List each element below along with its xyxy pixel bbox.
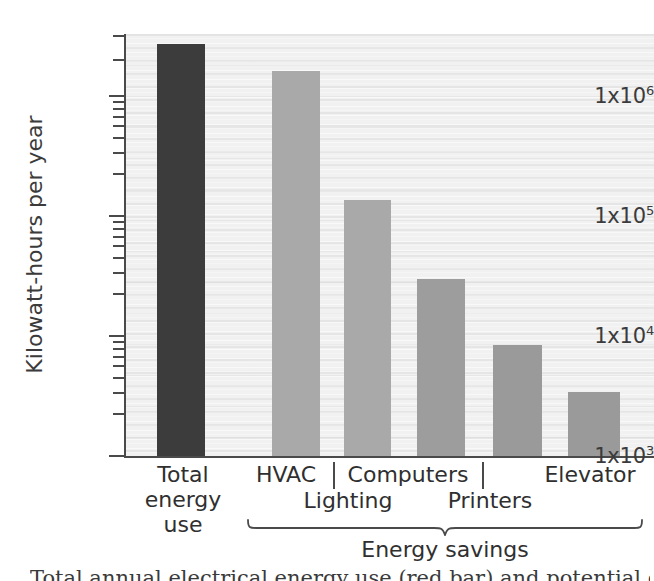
category-label-line1: Elevator: [530, 462, 650, 487]
bar-lighting[interactable]: [344, 200, 391, 456]
category-label-line3: use: [128, 512, 238, 537]
energy-savings-brace-icon: [246, 519, 644, 536]
bar-printers[interactable]: [493, 345, 542, 456]
bar-total-energy-use[interactable]: [157, 44, 205, 456]
y-tick-mantissa: 1x10: [594, 324, 646, 348]
y-tick-major-1e6: [109, 95, 125, 97]
category-label-hvac: HVAC: [241, 462, 331, 487]
y-tick-exponent: 6: [646, 83, 654, 98]
category-label-printers: Printers: [430, 488, 550, 513]
y-tick-exponent: 3: [646, 443, 654, 458]
y-tick-minor: [113, 173, 125, 175]
category-separator: [333, 462, 335, 489]
y-tick-minor: [113, 272, 125, 274]
y-tick-minor: [113, 413, 125, 415]
y-tick-minor: [113, 236, 125, 238]
y-tick-major-1e3: [109, 455, 125, 457]
figure-caption: Total annual electrical energy use (red …: [30, 566, 650, 581]
y-tick-minor: [113, 108, 125, 110]
y-tick-minor: [113, 137, 125, 139]
bar-hvac[interactable]: [272, 71, 320, 456]
y-tick-minor: [113, 341, 125, 343]
y-tick-minor: [113, 377, 125, 379]
category-label-total-energy-use: Total energy use: [128, 462, 238, 537]
y-tick-minor: [113, 228, 125, 230]
y-tick-exponent: 4: [646, 323, 654, 338]
y-tick-minor: [113, 35, 125, 37]
category-label-line2: energy: [128, 487, 238, 512]
energy-bar-chart-figure: 1x106 1x105 1x104 1x103 Kilowatt-hours p…: [0, 0, 654, 581]
y-tick-minor: [113, 221, 125, 223]
y-tick-minor: [113, 293, 125, 295]
y-tick-major-1e5: [109, 215, 125, 217]
y-tick-label-1e5: 1x105: [568, 203, 654, 228]
y-tick-mantissa: 1x10: [594, 204, 646, 228]
category-label-line1: Total: [128, 462, 238, 487]
y-tick-minor: [113, 257, 125, 259]
y-tick-minor: [113, 116, 125, 118]
y-tick-label-1e6: 1x106: [568, 83, 654, 108]
category-separator: [482, 462, 484, 489]
y-tick-minor: [113, 356, 125, 358]
y-tick-minor: [113, 348, 125, 350]
y-tick-label-1e4: 1x104: [568, 323, 654, 348]
y-tick-minor: [113, 245, 125, 247]
y-tick-mantissa: 1x10: [594, 84, 646, 108]
y-tick-minor: [113, 365, 125, 367]
category-label-computers: Computers: [336, 462, 480, 487]
y-tick-major-1e4: [109, 335, 125, 337]
y-axis-title: Kilowatt-hours per year: [22, 45, 47, 445]
y-tick-minor: [113, 125, 125, 127]
y-tick-minor: [113, 59, 125, 61]
category-label-line1: Lighting: [288, 488, 408, 513]
category-label-line1: Computers: [336, 462, 480, 487]
category-label-line1: Printers: [430, 488, 550, 513]
y-tick-minor: [113, 152, 125, 154]
category-label-lighting: Lighting: [288, 488, 408, 513]
group-label-energy-savings: Energy savings: [246, 537, 644, 562]
y-tick-minor: [113, 101, 125, 103]
bar-computers[interactable]: [417, 279, 465, 456]
category-label-elevator: Elevator: [530, 462, 650, 487]
y-tick-exponent: 5: [646, 203, 654, 218]
category-label-line1: HVAC: [241, 462, 331, 487]
y-tick-minor: [113, 392, 125, 394]
